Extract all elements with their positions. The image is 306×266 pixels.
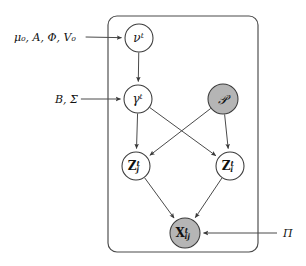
z-j-node-circle[interactable] [122,152,150,180]
graph-canvas: νtγt𝒫ZtjZtiXtij μ₀, A, Φ, V₀B, ΣΠ [0,0,306,266]
edge-z-j-to-x-ij [145,178,175,218]
x-ij-node[interactable]: Xtij [170,218,200,248]
edge-script-p-to-z-i [225,114,229,148]
z-j-node[interactable]: Ztj [122,152,150,180]
gamma-node[interactable]: γt [124,85,152,113]
hyperparam-label-pi: Π [282,227,293,240]
plate-layer [108,16,258,252]
script-p-node-circle[interactable] [208,84,238,114]
edge-gamma-to-z-j [137,113,138,148]
z-i-node-circle[interactable] [216,152,244,180]
edge-gamma-to-z-i [150,108,216,156]
edge-script-p-to-z-j [150,108,211,155]
edge-layer [81,37,277,233]
time-plate [108,16,258,252]
edge-hyper-mu-to-nu [86,37,122,38]
edge-z-i-to-x-ij [195,178,222,218]
node-layer: νtγt𝒫ZtjZtiXtij [122,24,244,248]
nu-node-circle[interactable] [125,24,153,52]
nu-node[interactable]: νt [125,24,153,52]
hyperparam-label-b-sigma: B, Σ [54,93,78,106]
x-ij-node-circle[interactable] [170,218,200,248]
gamma-node-circle[interactable] [124,85,152,113]
hyperparameter-layer: μ₀, A, Φ, V₀B, ΣΠ [14,31,293,240]
graphical-model-diagram: νtγt𝒫ZtjZtiXtij μ₀, A, Φ, V₀B, ΣΠ [0,0,306,266]
hyperparam-label-mu-a-phi-v0: μ₀, A, Φ, V₀ [14,31,76,44]
z-i-node[interactable]: Zti [216,152,244,180]
script-p-node[interactable]: 𝒫 [208,84,238,114]
